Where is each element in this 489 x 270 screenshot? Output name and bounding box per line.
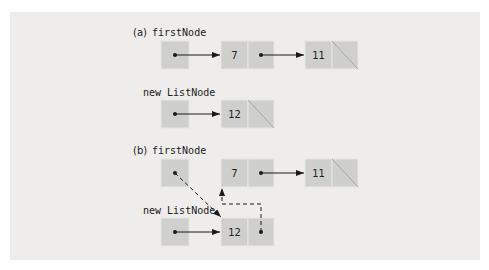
list-node-11: 11 (305, 41, 358, 69)
part-a-newnode-label: new ListNode (143, 87, 215, 98)
list-node-11: 11 (305, 159, 358, 187)
node-value: 7 (231, 168, 237, 179)
part-b-newnode-label: new ListNode (143, 205, 215, 216)
part-b-tag: (b) (133, 145, 147, 156)
node-value: 11 (312, 168, 325, 179)
node-value: 12 (228, 227, 241, 238)
node-value: 11 (312, 50, 325, 61)
part-b: (b) firstNode 7 11 new ListNode 12 (133, 145, 358, 246)
node-value: 12 (228, 109, 241, 120)
part-b-firstnode-label: firstNode (152, 145, 206, 156)
linked-list-diagram: (a) firstNode 7 11 new ListNode 12 (0, 0, 489, 270)
list-node-12: 12 (221, 100, 274, 128)
node-value: 7 (231, 50, 237, 61)
part-a-tag: (a) (133, 27, 147, 38)
list-node-12: 12 (221, 218, 274, 246)
part-a-firstnode-label: firstNode (152, 27, 206, 38)
part-a: (a) firstNode 7 11 new ListNode 12 (133, 27, 358, 128)
